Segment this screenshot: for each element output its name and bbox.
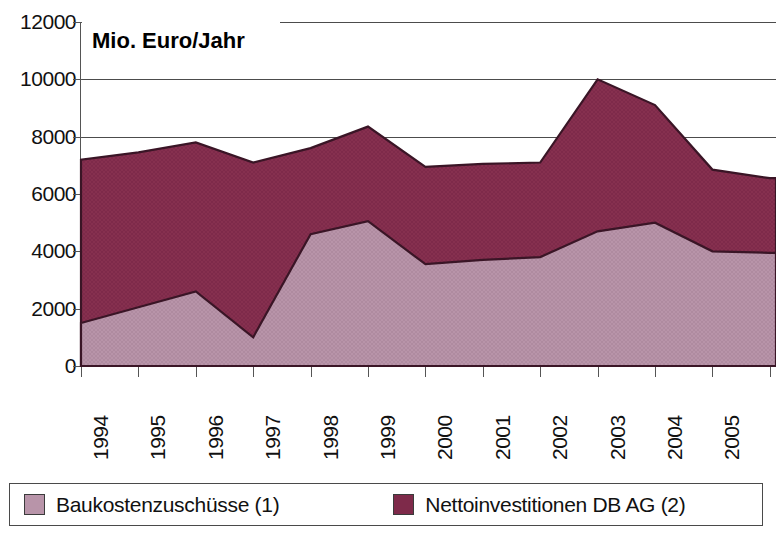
x-axis-label-1994: 1994 — [90, 415, 111, 460]
x-axis-label-1995: 1995 — [147, 415, 168, 460]
legend-item-baukostenzuschuesse: Baukostenzuschüsse (1) — [24, 494, 279, 515]
legend-label-baukostenzuschuesse: Baukostenzuschüsse (1) — [56, 494, 279, 515]
x-axis-label-2004: 2004 — [664, 415, 685, 460]
x-axis-label-2003: 2003 — [607, 415, 628, 460]
x-axis-label-2002: 2002 — [549, 415, 570, 460]
x-axis-label-1998: 1998 — [320, 415, 341, 460]
x-axis-label-2001: 2001 — [492, 415, 513, 460]
x-axis-label-2000: 2000 — [434, 415, 455, 460]
x-axis-labels: 1994199519961997199819992000200120022003… — [0, 378, 776, 466]
chart-legend: Baukostenzuschüsse (1) Nettoinvestitione… — [9, 483, 763, 526]
legend-label-nettoinvestitionen: Nettoinvestitionen DB AG (2) — [425, 494, 685, 515]
x-axis-label-2005: 2005 — [721, 415, 742, 460]
x-axis-label-1999: 1999 — [377, 415, 398, 460]
x-axis-label-1996: 1996 — [205, 415, 226, 460]
legend-item-nettoinvestitionen: Nettoinvestitionen DB AG (2) — [393, 494, 685, 515]
chart-title: Mio. Euro/Jahr — [92, 28, 245, 54]
legend-swatch-light — [24, 494, 45, 515]
x-axis-label-1997: 1997 — [262, 415, 283, 460]
chart-container: 120001000080006000400020000 Mio. Euro/Ja… — [0, 0, 776, 470]
legend-swatch-dark — [393, 494, 414, 515]
